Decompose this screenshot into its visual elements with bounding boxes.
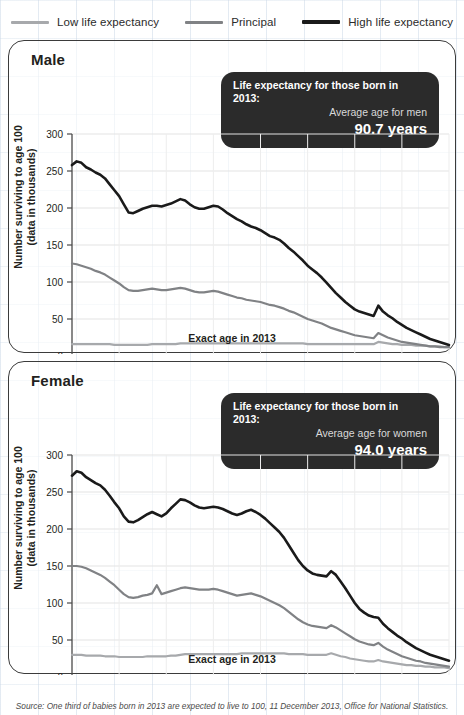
y-tick-label-150: 150 xyxy=(46,561,63,572)
source-note: Source: One third of babies born in 2013… xyxy=(0,701,464,711)
y-tick-label-300: 300 xyxy=(46,129,63,140)
panel-male: Male Life expectancy for those born in 2… xyxy=(8,40,456,353)
y-tick-label-100: 100 xyxy=(46,598,63,609)
plot-area-female: 05010015020025030001020304050607080 xyxy=(9,362,457,675)
x-axis-title-female: Exact age in 2013 xyxy=(9,653,455,665)
y-tick-label-250: 250 xyxy=(46,487,63,498)
legend-swatch-high-icon xyxy=(302,20,340,24)
y-tick-label-50: 50 xyxy=(52,635,64,646)
y-tick-label-100: 100 xyxy=(46,277,63,288)
x-axis-title-male: Exact age in 2013 xyxy=(9,332,455,344)
legend-swatch-low-icon xyxy=(11,21,49,24)
y-tick-label-0: 0 xyxy=(57,351,63,354)
legend-item-low: Low life expectancy xyxy=(11,16,159,28)
y-tick-label-300: 300 xyxy=(46,450,63,461)
plot-area-male: 05010015020025030001020304050607080 xyxy=(9,41,457,354)
panel-female: Female Life expectancy for those born in… xyxy=(8,361,456,674)
figure-root: Low life expectancy Principal High life … xyxy=(0,0,464,715)
legend-label-low: Low life expectancy xyxy=(57,16,159,28)
legend-swatch-principal-icon xyxy=(185,21,223,24)
y-tick-label-50: 50 xyxy=(52,314,64,325)
y-tick-label-200: 200 xyxy=(46,203,63,214)
y-tick-label-150: 150 xyxy=(46,240,63,251)
y-tick-label-250: 250 xyxy=(46,166,63,177)
legend-label-high: High life expectancy xyxy=(348,16,453,28)
chart-legend: Low life expectancy Principal High life … xyxy=(0,0,464,40)
legend-item-principal: Principal xyxy=(185,16,276,28)
legend-label-principal: Principal xyxy=(231,16,276,28)
y-tick-label-200: 200 xyxy=(46,524,63,535)
legend-item-high: High life expectancy xyxy=(302,16,453,28)
y-tick-label-0: 0 xyxy=(57,672,63,675)
